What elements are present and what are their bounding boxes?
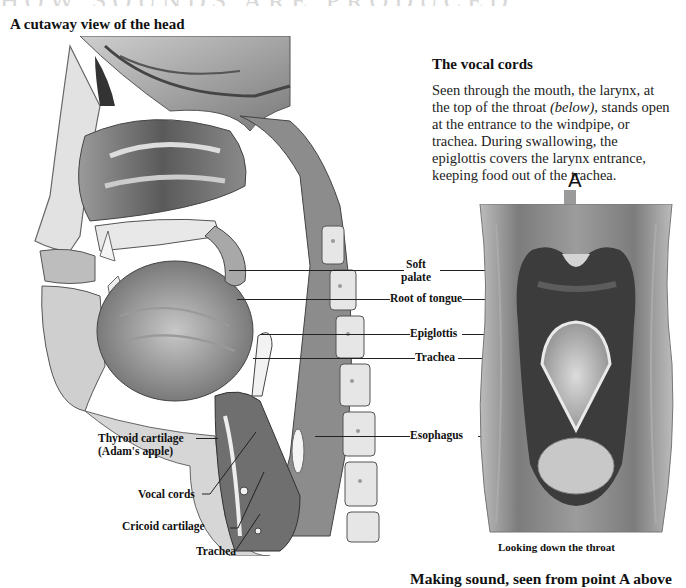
vocal-cords-title: The vocal cords [432, 56, 533, 73]
point-a-label: A [568, 168, 582, 192]
description-italic: (below) [550, 99, 594, 115]
cut-off-page-heading: HOW SOUNDS ARE PRODUCED [0, 0, 686, 6]
label-trachea-lower: Trachea [196, 545, 236, 558]
label-cricoid-cartilage: Cricoid cartilage [122, 520, 205, 533]
label-soft-palate-line1: Soft [396, 258, 436, 271]
trachea-leader-left [253, 358, 415, 359]
label-epiglottis: Epiglottis [410, 327, 457, 340]
throat-view-illustration [476, 204, 676, 534]
vocal-cords-description: Seen through the mouth, the larynx, at t… [432, 82, 672, 184]
epiglottis-leader-left [260, 334, 410, 335]
throat-caption: Looking down the throat [498, 541, 615, 553]
label-soft-palate: Soft palate [396, 258, 436, 284]
label-thyroid-cartilage: Thyroid cartilage (Adam's apple) [98, 432, 184, 458]
soft-palate-leader-left [229, 270, 404, 271]
label-trachea: Trachea [415, 351, 455, 364]
label-thyroid-cartilage-line2: (Adam's apple) [98, 445, 184, 458]
label-esophagus: Esophagus [410, 429, 463, 442]
label-root-of-tongue: Root of tongue [390, 292, 462, 305]
root-of-tongue-leader-left [237, 299, 390, 300]
label-thyroid-cartilage-line1: Thyroid cartilage [98, 432, 184, 445]
trachea-lower-leader [234, 512, 264, 552]
making-sound-caption: Making sound, seen from point A above [410, 570, 672, 588]
label-vocal-cords: Vocal cords [138, 488, 195, 501]
cutaway-title: A cutaway view of the head [10, 16, 185, 33]
label-soft-palate-line2: palate [396, 271, 436, 284]
esophagus-leader-left [315, 436, 410, 437]
